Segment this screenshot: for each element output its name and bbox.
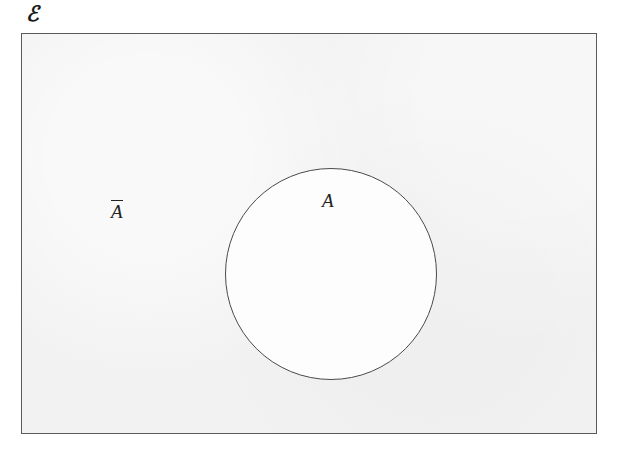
- universal-set-rectangle: A A: [21, 33, 597, 434]
- set-a-label: A: [322, 191, 334, 210]
- set-a-complement-label: A: [111, 200, 123, 222]
- set-a-complement-label-text: A: [111, 200, 123, 222]
- venn-diagram: ℰ A A: [0, 0, 622, 465]
- universal-set-label: ℰ: [26, 4, 40, 25]
